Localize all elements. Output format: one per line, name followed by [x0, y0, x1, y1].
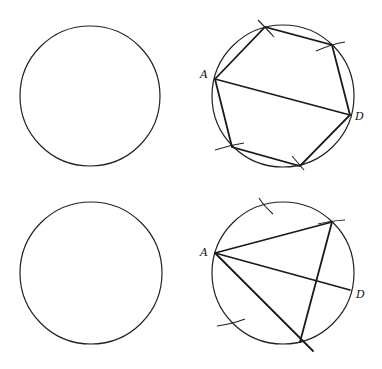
diameter-ad — [215, 253, 350, 290]
panel-top-right-hexagon: A D — [199, 20, 364, 170]
label-d: D — [355, 288, 365, 301]
label-a: A — [199, 68, 208, 81]
triangle-side-upper — [215, 222, 332, 253]
label-d: D — [354, 110, 364, 123]
diameter-ad — [215, 79, 350, 115]
label-a: A — [199, 246, 208, 259]
triangle-side-right — [300, 222, 332, 342]
compass-arc — [217, 319, 245, 326]
triangle-side-lower — [215, 253, 313, 351]
blank-circle — [20, 26, 160, 166]
panel-bottom-right-triangle: A D — [199, 198, 365, 351]
panel-bottom-left — [20, 202, 162, 344]
blank-circle — [20, 202, 162, 344]
construction-figure: A D A D — [0, 0, 382, 369]
panel-top-left — [20, 26, 160, 166]
